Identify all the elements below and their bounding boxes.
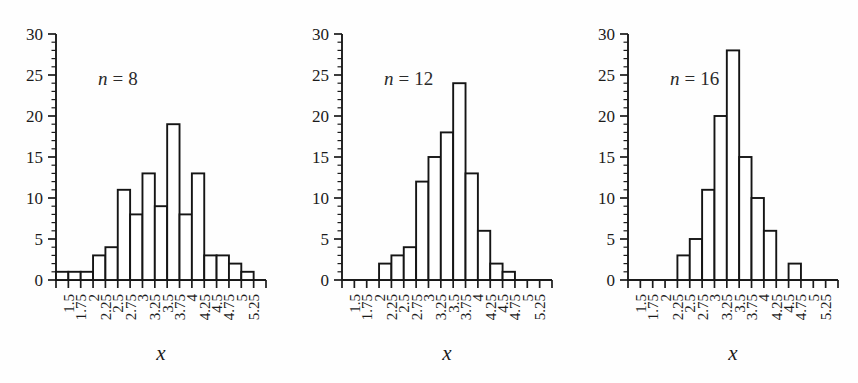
- histogram-panel-3: 0510152025301.51.7522.252.52.7533.253.53…: [572, 0, 858, 383]
- x-axis-title: x: [727, 341, 738, 365]
- x-axis-title: x: [155, 341, 166, 365]
- histogram-bar: [764, 231, 776, 280]
- y-axis-ticks: 051015202530: [26, 25, 56, 290]
- y-tick-label: 0: [321, 271, 330, 290]
- x-axis-ticks: 1.51.7522.252.52.7533.253.53.7544.254.54…: [342, 280, 552, 320]
- y-tick-label: 25: [312, 66, 329, 85]
- histogram-bar: [739, 157, 751, 280]
- y-tick-label: 10: [598, 189, 615, 208]
- x-axis-title: x: [441, 341, 452, 365]
- histogram-bar: [379, 264, 391, 280]
- histogram-bar: [68, 272, 80, 280]
- y-tick-label: 20: [312, 107, 329, 126]
- histogram-bar: [453, 83, 465, 280]
- y-axis-ticks: 051015202530: [312, 25, 342, 290]
- histogram-bar: [677, 255, 689, 280]
- histogram-bar: [192, 173, 204, 280]
- histogram-bar: [130, 214, 142, 280]
- panel-label-equals: =: [399, 68, 410, 89]
- y-tick-label: 5: [321, 230, 330, 249]
- panel-label-equals: =: [685, 68, 696, 89]
- y-tick-label: 10: [26, 189, 43, 208]
- histogram-bar: [503, 272, 515, 280]
- y-axis-ticks: 051015202530: [598, 25, 628, 290]
- histogram-bar: [391, 255, 403, 280]
- panel-label-variable: n: [670, 68, 680, 89]
- y-tick-label: 20: [598, 107, 615, 126]
- y-tick-label: 30: [598, 25, 615, 44]
- histogram-bar: [727, 50, 739, 280]
- panel-label-value: 8: [128, 68, 138, 89]
- histogram-bars: [677, 50, 801, 280]
- histogram-bar: [118, 190, 130, 280]
- histogram-bar: [752, 198, 764, 280]
- panel-label-value: 16: [700, 68, 719, 89]
- y-tick-label: 0: [607, 271, 616, 290]
- panel-label-variable: n: [98, 68, 108, 89]
- y-tick-label: 25: [598, 66, 615, 85]
- x-tick-label: 5.25: [246, 294, 262, 320]
- y-tick-label: 5: [35, 230, 44, 249]
- histogram-bar: [466, 173, 478, 280]
- y-tick-label: 15: [598, 148, 615, 167]
- panel-sample-size-label: n=16: [670, 68, 719, 89]
- x-tick-label: 5.25: [532, 294, 548, 320]
- histogram-bars: [56, 124, 254, 280]
- panel-label-variable: n: [384, 68, 394, 89]
- y-tick-label: 25: [26, 66, 43, 85]
- histogram-bar: [690, 239, 702, 280]
- histogram-bar: [217, 255, 229, 280]
- histogram-bar: [155, 206, 167, 280]
- histogram-bars: [379, 83, 515, 280]
- y-tick-label: 15: [312, 148, 329, 167]
- histogram-bar: [702, 190, 714, 280]
- panel-sample-size-label: n=8: [98, 68, 138, 89]
- histogram-panel-1: 0510152025301.51.7522.252.52.7533.253.53…: [0, 0, 286, 383]
- histogram-bar: [490, 264, 502, 280]
- y-tick-label: 30: [26, 25, 43, 44]
- histogram-bar: [441, 132, 453, 280]
- x-axis-ticks: 1.51.7522.252.52.7533.253.53.7544.254.54…: [56, 280, 266, 320]
- x-tick-label: 5.25: [818, 294, 834, 320]
- histogram-bar: [416, 182, 428, 280]
- histogram-bar: [229, 264, 241, 280]
- histogram-bar: [167, 124, 179, 280]
- histogram-bar: [105, 247, 117, 280]
- histogram-bar: [241, 272, 253, 280]
- histogram-bar: [180, 214, 192, 280]
- histogram-bar: [204, 255, 216, 280]
- x-axis-ticks: 1.51.7522.252.52.7533.253.53.7544.254.54…: [628, 280, 838, 320]
- histogram-bar: [478, 231, 490, 280]
- y-tick-label: 30: [312, 25, 329, 44]
- histogram-bar: [714, 116, 726, 280]
- y-tick-label: 5: [607, 230, 616, 249]
- y-tick-label: 20: [26, 107, 43, 126]
- panel-label-equals: =: [113, 68, 124, 89]
- histogram-bar: [93, 255, 105, 280]
- histogram-bar: [789, 264, 801, 280]
- panel-label-value: 12: [414, 68, 433, 89]
- y-tick-label: 0: [35, 271, 44, 290]
- histogram-bar: [56, 272, 68, 280]
- y-tick-label: 10: [312, 189, 329, 208]
- histogram-panel-2: 0510152025301.51.7522.252.52.7533.253.53…: [286, 0, 572, 383]
- histogram-bar: [428, 157, 440, 280]
- histogram-figure: 0510152025301.51.7522.252.52.7533.253.53…: [0, 0, 858, 383]
- y-tick-label: 15: [26, 148, 43, 167]
- histogram-bar: [81, 272, 93, 280]
- histogram-bar: [142, 173, 154, 280]
- histogram-bar: [404, 247, 416, 280]
- panel-sample-size-label: n=12: [384, 68, 433, 89]
